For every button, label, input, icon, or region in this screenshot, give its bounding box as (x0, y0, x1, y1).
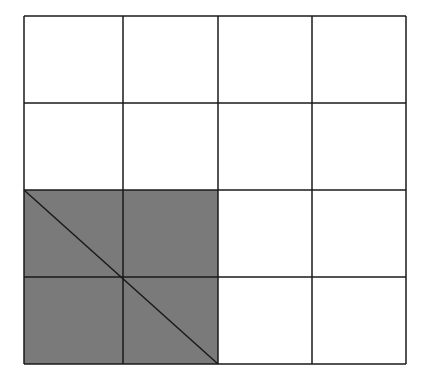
grid-diagram (0, 0, 427, 383)
